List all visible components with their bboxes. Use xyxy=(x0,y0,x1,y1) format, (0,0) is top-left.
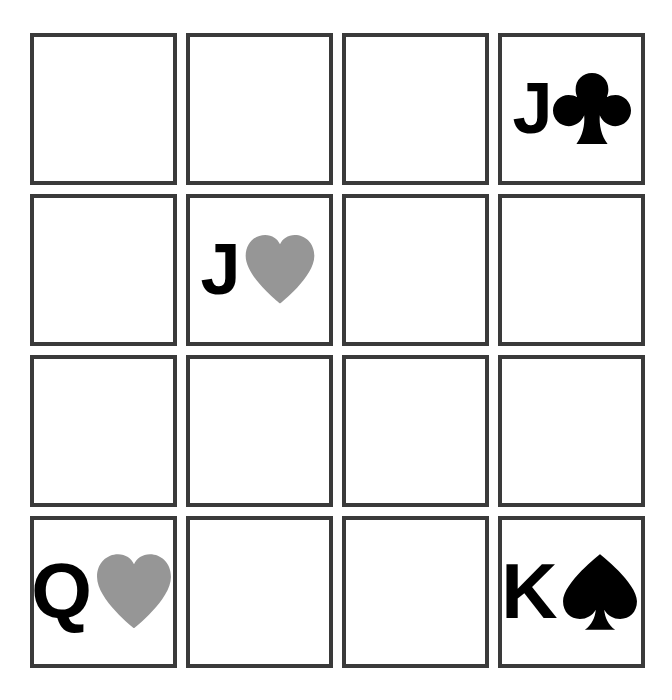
card-face: Q xyxy=(31,550,176,634)
card-slot-empty-r3c3[interactable] xyxy=(342,355,489,507)
card-q-hearts[interactable]: Q xyxy=(30,516,177,668)
hearts-icon xyxy=(92,550,176,634)
card-face: K xyxy=(501,550,641,634)
card-rank: J xyxy=(200,239,238,301)
card-slot-empty-r2c1[interactable] xyxy=(30,194,177,346)
card-rank: Q xyxy=(31,558,90,625)
spades-icon xyxy=(558,550,642,634)
card-slot-empty-r4c2[interactable] xyxy=(186,516,333,668)
card-face: J xyxy=(200,231,318,309)
card-k-spades[interactable]: K xyxy=(498,516,645,668)
card-j-hearts[interactable]: J xyxy=(186,194,333,346)
card-slot-empty-r2c4[interactable] xyxy=(498,194,645,346)
card-rank: J xyxy=(512,78,550,140)
card-slot-empty-r3c1[interactable] xyxy=(30,355,177,507)
card-rank: K xyxy=(501,558,555,625)
card-slot-empty-r2c3[interactable] xyxy=(342,194,489,346)
card-slot-empty-r4c3[interactable] xyxy=(342,516,489,668)
card-slot-empty-r1c1[interactable] xyxy=(30,33,177,185)
card-grid: JJQK xyxy=(30,33,645,668)
card-face: J xyxy=(512,70,630,148)
card-slot-empty-r1c3[interactable] xyxy=(342,33,489,185)
hearts-icon xyxy=(241,231,319,309)
card-slot-empty-r3c4[interactable] xyxy=(498,355,645,507)
clubs-icon xyxy=(553,70,631,148)
card-slot-empty-r3c2[interactable] xyxy=(186,355,333,507)
card-j-clubs[interactable]: J xyxy=(498,33,645,185)
card-slot-empty-r1c2[interactable] xyxy=(186,33,333,185)
